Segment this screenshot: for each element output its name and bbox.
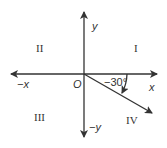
- origin-label: O: [73, 78, 82, 90]
- coordinate-plane-diagram: y −y x −x O −30° I II III IV: [0, 0, 167, 148]
- quadrant-III-label: III: [34, 111, 45, 123]
- y-axis-label: y: [91, 20, 99, 32]
- neg-y-axis-label: −y: [89, 121, 102, 133]
- quadrant-II-label: II: [36, 42, 44, 54]
- neg-x-axis-label: −x: [17, 78, 29, 90]
- angle-label: −30°: [104, 76, 127, 88]
- quadrant-IV-label: IV: [126, 114, 138, 126]
- x-axis-label: x: [148, 81, 155, 93]
- quadrant-I-label: I: [134, 42, 138, 54]
